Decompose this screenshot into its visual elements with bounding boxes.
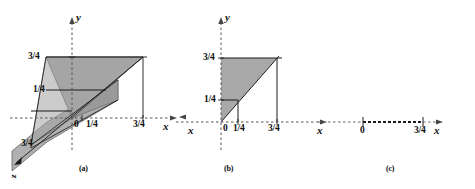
panel-b-tick-label-y-three-quarters: 3/4 <box>203 53 215 63</box>
y-axis-arrowhead <box>69 17 74 24</box>
panel-a-tick-label-x-three-quarters: 3/4 <box>133 120 145 130</box>
panel-b-y-axis-label: y <box>225 12 230 23</box>
panel-a-z-axis-label: z <box>9 175 18 178</box>
panel-b-graphic <box>180 0 330 189</box>
panel-b-caption: (b) <box>224 165 233 173</box>
y-axis-arrowhead <box>218 17 223 24</box>
panel-c-x-axis-label: x <box>434 125 439 136</box>
panel-b-x-axis-label-right: x <box>317 125 322 136</box>
panel-a-tick-label-x-quarter: 1/4 <box>86 120 98 130</box>
panel-a-tick-label-z-three-quarters: 3/4 <box>21 139 33 149</box>
panel-b-x-axis-label-left: x <box>188 125 193 136</box>
panel-c: x 0 3/4 (c) <box>330 0 475 189</box>
panel-b-tick-label-x-three-quarters: 3/4 <box>268 124 280 134</box>
panel-b: y x x 3/4 1/4 0 1/4 3/4 (b) <box>180 0 330 189</box>
panel-a-caption: (a) <box>79 165 88 173</box>
panel-a-tick-label-origin: 0 <box>74 120 79 130</box>
panel-a-tick-label-y-quarter: 1/4 <box>33 85 45 95</box>
figure-three-panel-projection: y x z 3/4 1/4 0 1/4 3/4 3/4 (a) <box>0 0 475 189</box>
panel-c-tick-label-origin: 0 <box>360 126 365 136</box>
panel-a-y-axis-label: y <box>76 12 81 23</box>
panel-b-tick-label-x-quarter: 1/4 <box>233 124 245 134</box>
x-axis-arrowhead <box>170 115 177 120</box>
panel-a-x-axis-label: x <box>163 121 168 132</box>
panel-a-tick-label-y-three-quarters: 3/4 <box>28 52 40 62</box>
panel-a-graphic <box>0 0 180 189</box>
triangular-back-face <box>31 57 143 145</box>
panel-a: y x z 3/4 1/4 0 1/4 3/4 3/4 (a) <box>0 0 180 189</box>
panel-c-tick-label-x-three-quarters: 3/4 <box>414 126 426 136</box>
panel-c-caption: (c) <box>386 165 394 173</box>
panel-c-graphic <box>330 0 475 189</box>
panel-b-tick-label-y-quarter: 1/4 <box>204 95 216 105</box>
panel-b-tick-label-origin: 0 <box>223 124 228 134</box>
x-axis-arrowhead-left <box>179 114 186 119</box>
